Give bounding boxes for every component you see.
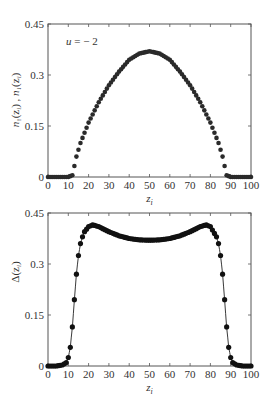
y-tick-label: 0.15	[25, 120, 45, 132]
data-point	[216, 241, 221, 246]
x-tick-label: 80	[205, 368, 217, 380]
data-point	[204, 112, 209, 117]
data-point	[220, 154, 225, 159]
x-axis-label: zi	[145, 381, 153, 396]
x-tick-label: 100	[243, 368, 260, 380]
data-point	[218, 253, 223, 258]
data-point	[94, 104, 99, 109]
density-plot: 010203040506070809010000.150.30.45ziu = …	[9, 18, 260, 207]
data-point	[76, 253, 81, 258]
x-tick-label: 30	[103, 368, 115, 380]
data-point	[206, 116, 211, 121]
x-tick-label: 90	[225, 179, 237, 191]
plot-frame	[48, 213, 251, 366]
data-point	[249, 175, 254, 180]
y-tick-label: 0.45	[25, 18, 45, 30]
x-tick-label: 70	[185, 368, 197, 380]
x-tick-label: 50	[144, 368, 156, 380]
figure: 010203040506070809010000.150.30.45ziu = …	[0, 0, 272, 405]
x-tick-label: 70	[185, 179, 197, 191]
data-point	[64, 360, 69, 365]
data-point	[72, 297, 77, 302]
x-tick-label: 0	[45, 368, 51, 380]
x-tick-label: 20	[83, 179, 95, 191]
x-tick-label: 100	[243, 179, 260, 191]
data-point	[210, 125, 215, 130]
parameter-annotation: u = − 2	[66, 35, 98, 47]
data-point	[228, 355, 233, 360]
x-tick-label: 10	[63, 179, 75, 191]
data-line	[48, 225, 251, 366]
data-point	[66, 355, 71, 360]
x-tick-label: 10	[63, 368, 75, 380]
data-point	[202, 108, 207, 113]
data-point	[74, 272, 79, 277]
data-point	[200, 104, 205, 109]
y-tick-label: 0	[39, 171, 45, 183]
data-point	[84, 125, 89, 130]
x-tick-label: 50	[144, 179, 156, 191]
x-tick-label: 40	[124, 368, 136, 380]
data-point	[248, 363, 253, 368]
data-point	[70, 173, 75, 178]
y-axis-label: Δ(zi)	[9, 261, 23, 283]
data-point	[78, 241, 83, 246]
data-point	[214, 234, 219, 239]
data-point	[88, 116, 93, 121]
y-tick-label: 0.3	[30, 258, 44, 270]
x-tick-label: 60	[164, 179, 176, 191]
data-point	[80, 136, 85, 141]
data-point	[222, 297, 227, 302]
data-point	[90, 112, 95, 117]
data-point	[212, 131, 217, 136]
data-point	[68, 345, 73, 350]
pairing-amplitude-plot: 010203040506070809010000.150.30.45ziΔ(zi…	[9, 207, 260, 396]
data-point	[86, 120, 91, 125]
data-point	[220, 272, 225, 277]
x-tick-label: 30	[103, 179, 115, 191]
x-tick-label: 0	[45, 179, 51, 191]
x-tick-label: 60	[164, 368, 176, 380]
data-point	[224, 324, 229, 329]
data-point	[198, 100, 203, 105]
data-point	[78, 141, 83, 146]
x-tick-label: 20	[83, 368, 95, 380]
y-tick-label: 0.15	[25, 309, 45, 321]
y-tick-label: 0.3	[30, 69, 44, 81]
data-point	[80, 234, 85, 239]
y-tick-label: 0.45	[25, 207, 45, 219]
data-point	[226, 345, 231, 350]
data-point	[74, 154, 79, 159]
data-point	[218, 148, 223, 153]
data-point	[72, 164, 77, 169]
x-tick-label: 90	[225, 368, 237, 380]
x-tick-label: 80	[205, 179, 217, 191]
data-point	[92, 108, 97, 113]
data-point	[82, 131, 87, 136]
data-point	[70, 324, 75, 329]
data-point	[222, 164, 227, 169]
x-axis-label: zi	[145, 192, 153, 207]
data-point	[208, 120, 213, 125]
y-tick-label: 0	[39, 360, 45, 372]
data-point	[214, 136, 219, 141]
x-tick-label: 40	[124, 179, 136, 191]
data-point	[76, 148, 81, 153]
data-point	[216, 141, 221, 146]
y-axis-label: n↑(zi) , n↓(zi)	[9, 72, 23, 127]
